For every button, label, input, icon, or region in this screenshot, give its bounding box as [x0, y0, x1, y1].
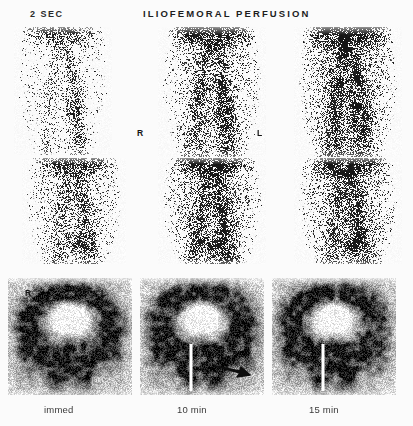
figure-title: ILIOFEMORAL PERFUSION	[143, 8, 310, 19]
scintigram-panel-row2-col3	[294, 158, 402, 264]
phase-label: 2 SEC	[30, 9, 64, 19]
scintigram-panel-row2-col1	[22, 158, 126, 264]
orientation-marker-right-row3: R	[25, 288, 31, 298]
orientation-marker-right-row1: R	[137, 128, 143, 138]
time-label-immed: immed	[44, 404, 74, 415]
scintigram-panel-row1-col3	[294, 27, 402, 157]
orientation-marker-left-row1: L	[257, 128, 262, 138]
scintigraphy-figure: 2 SEC ILIOFEMORAL PERFUSION R L R L i	[0, 0, 413, 426]
scintigram-canvas	[14, 27, 112, 155]
scintigram-panel-row2-col2	[158, 158, 266, 264]
scintigram-panel-row1-col2	[158, 27, 266, 157]
arrow-icon	[210, 352, 256, 382]
scintigram-canvas	[158, 27, 266, 157]
time-label-15min: 15 min	[309, 404, 339, 415]
time-label-10min: 10 min	[177, 404, 207, 415]
scintigram-canvas	[294, 158, 402, 264]
scintigram-canvas	[22, 158, 126, 264]
orientation-marker-left-row3: L	[101, 288, 106, 298]
scintigram-canvas	[272, 278, 396, 395]
scintigram-canvas	[158, 158, 266, 264]
scintigram-canvas	[294, 27, 402, 157]
scintigram-panel-row3-col3	[272, 278, 396, 395]
scintigram-panel-row1-col1	[14, 27, 112, 155]
